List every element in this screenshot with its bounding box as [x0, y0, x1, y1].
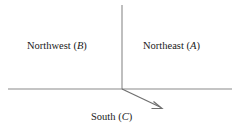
region-label-south-name: South: [91, 111, 116, 122]
axis-diagram-figure: Northwest (B) Northeast (A) South (C): [0, 0, 237, 130]
region-label-northwest-name: Northwest: [27, 40, 71, 51]
region-label-northeast-name: Northeast: [143, 40, 184, 51]
region-label-northwest-close-paren: ): [83, 40, 87, 51]
region-label-northwest: Northwest (B): [27, 41, 87, 52]
region-label-northeast-close-paren: ): [196, 40, 200, 51]
region-label-south-close-paren: ): [129, 111, 133, 122]
region-label-south: South (C): [91, 112, 133, 123]
south-arrow-shaft: [122, 89, 160, 107]
region-label-south-symbol: C: [122, 111, 129, 122]
region-label-northeast: Northeast (A): [143, 41, 200, 52]
